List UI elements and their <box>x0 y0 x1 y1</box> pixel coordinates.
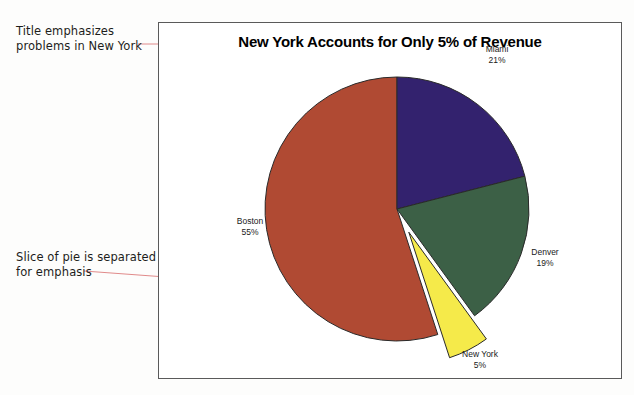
chart-frame: New York Accounts for Only 5% of Revenue… <box>158 22 622 379</box>
pie-value-boston: 55% <box>241 227 258 237</box>
pie-label-boston: Boston <box>237 216 264 226</box>
pie-label-denver: Denver <box>531 247 559 257</box>
pie-label-new-york: New York <box>462 349 499 359</box>
pie-value-new-york: 5% <box>474 360 487 370</box>
annotation-slice-note: Slice of pie is separated for emphasis <box>16 250 166 280</box>
annotation-title-note: Title emphasizes problems in New York <box>16 24 156 54</box>
pie-chart: Miami 21% Denver 19% Boston 55% New York… <box>159 23 623 380</box>
pie-label-miami: Miami <box>486 44 509 54</box>
pie-value-miami: 21% <box>488 55 505 65</box>
pie-value-denver: 19% <box>536 258 553 268</box>
page-canvas: Title emphasizes problems in New York Sl… <box>0 0 634 395</box>
